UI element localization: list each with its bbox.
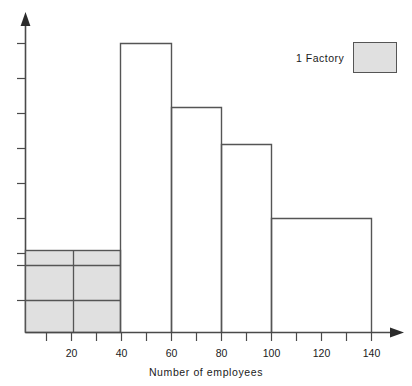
bar-bin-80-100 xyxy=(222,145,272,333)
x-axis-tick-label: 60 xyxy=(166,347,178,359)
x-axis-tick-label: 80 xyxy=(216,347,228,359)
bar-bin-40-60 xyxy=(121,44,172,333)
bar-bin-60-80 xyxy=(172,108,222,333)
legend-swatch-shaded-box xyxy=(353,42,397,73)
y-axis-arrowhead xyxy=(21,12,31,26)
legend: 1 Factory xyxy=(296,42,397,73)
x-axis-title: Number of employees xyxy=(0,366,412,378)
chart-root: 20 40 60 80 100 120 140 Number of employ… xyxy=(0,0,412,386)
bar-outline xyxy=(222,145,272,333)
x-axis-tick-label: 120 xyxy=(313,347,331,359)
x-axis-tick-label: 140 xyxy=(363,347,381,359)
x-axis: 20 40 60 80 100 120 140 xyxy=(26,328,405,359)
bar-outline xyxy=(121,44,172,333)
bar-bin-0-40 xyxy=(26,251,121,333)
bar-outline xyxy=(172,108,222,333)
x-axis-tick-label: 40 xyxy=(116,347,128,359)
x-axis-tick-label: 20 xyxy=(66,347,78,359)
x-axis-tick-label: 100 xyxy=(263,347,281,359)
bar-outline xyxy=(272,219,372,333)
x-axis-arrowhead xyxy=(390,328,404,338)
legend-item-label: 1 Factory xyxy=(296,52,344,64)
bar-bin-100-140 xyxy=(272,219,372,333)
